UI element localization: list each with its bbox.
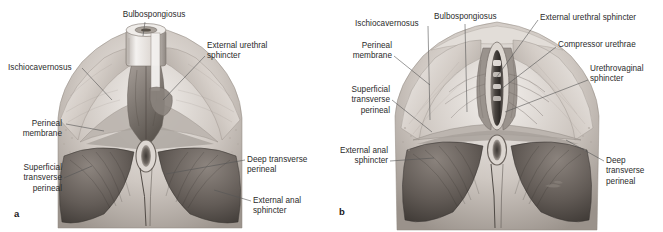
label-ischiocavernosus-b: Ischiocavernosus — [355, 19, 431, 29]
label-external-anal-sphincter-a: External anal sphincter — [253, 196, 331, 217]
figure-root: Bulbospongiosus Ischiocavernosus Externa… — [0, 0, 663, 232]
panel-letter-a: a — [14, 208, 19, 219]
label-compressor-urethrae-b: Compressor urethrae — [558, 40, 662, 50]
panel-b: Ischiocavernosus Bulbospongiosus Externa… — [331, 0, 663, 232]
label-superficial-transverse-perineal-b: Superficial transverse perineal — [332, 85, 390, 116]
label-external-urethral-sphincter-b: External urethral sphincter — [540, 13, 663, 23]
panel-b-external-anal-sphincter — [488, 135, 507, 165]
label-urethrovaginal-sphincter-b: Urethrovaginal sphincter — [590, 64, 662, 85]
label-deep-transverse-perineal-a: Deep transverse perineal — [247, 155, 331, 176]
panel-letter-b: b — [339, 206, 345, 217]
label-superficial-transverse-perineal-a: Superficial transverse perineal — [2, 163, 62, 194]
label-perineal-membrane-b: Perineal membrane — [334, 41, 392, 62]
label-external-anal-sphincter-b: External anal sphincter — [332, 146, 388, 167]
label-deep-transverse-perineal-b: Deep transverse perineal — [606, 156, 663, 187]
panel-a-external-anal-sphincter — [136, 140, 156, 172]
label-bulbospongiosus-b: Bulbospongiosus — [434, 12, 512, 22]
label-external-urethral-sphincter-a: External urethral sphincter — [207, 41, 287, 62]
panel-a: Bulbospongiosus Ischiocavernosus Externa… — [0, 0, 332, 232]
label-ischiocavernosus-a: Ischiocavernosus — [8, 63, 90, 73]
panel-b-vaginal-opening — [485, 42, 509, 130]
label-bulbospongiosus-a: Bulbospongiosus — [108, 10, 200, 20]
label-perineal-membrane-a: Perineal membrane — [4, 119, 62, 140]
